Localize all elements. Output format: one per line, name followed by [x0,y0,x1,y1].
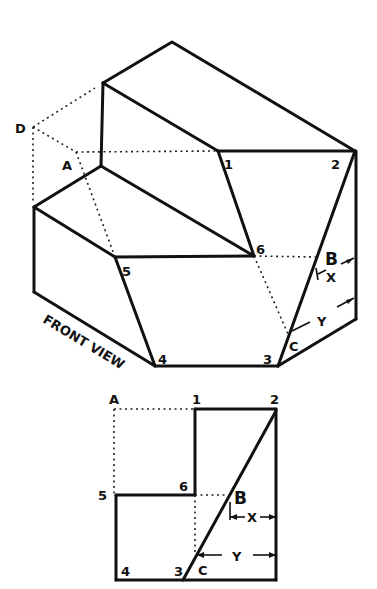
label-point-6: 6 [179,479,188,494]
label-x: X [247,510,257,525]
ortho-construction-lines [114,409,232,555]
label-point-6: 6 [256,242,265,257]
label-point-1: 1 [192,392,201,407]
label-a: A [62,158,72,173]
isometric-solid-edges [34,42,356,366]
label-point-1: 1 [224,157,233,172]
label-point-5: 5 [98,488,107,503]
isometric-view: D A 1 2 6 5 B X Y C 4 3 FRONT VIEW [15,42,356,372]
label-b: B [234,488,247,508]
drawing-canvas: D A 1 2 6 5 B X Y C 4 3 FRONT VIEW [0,0,377,589]
label-point-4: 4 [158,352,167,367]
label-point-3: 3 [174,564,183,579]
label-d: D [15,121,26,136]
label-point-2: 2 [270,392,279,407]
label-point-4: 4 [121,564,130,579]
label-y: Y [231,549,242,564]
label-x: X [326,270,336,285]
label-a: A [109,392,119,407]
label-point-2: 2 [331,157,340,172]
orthographic-view: A 1 2 5 6 B X Y C 4 3 [98,392,279,580]
label-c: C [289,339,299,354]
label-y: Y [316,314,327,329]
label-point-3: 3 [263,352,272,367]
label-b: B [325,249,338,269]
label-point-5: 5 [122,264,131,279]
label-c: C [198,563,208,578]
